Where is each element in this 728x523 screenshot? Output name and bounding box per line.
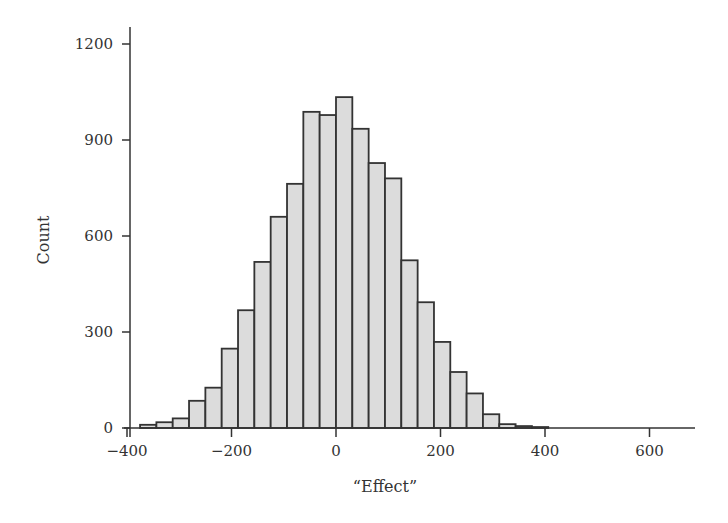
y-tick-label: 1200 [75, 35, 113, 53]
histogram-bar [483, 414, 499, 428]
histogram-bar [173, 418, 189, 428]
histogram-bar [385, 178, 401, 428]
histogram-bar [271, 217, 287, 428]
histogram-bar [287, 184, 303, 428]
histogram-bar [418, 302, 434, 428]
y-tick-label: 0 [103, 419, 113, 437]
histogram-bar [434, 342, 450, 428]
x-tick-label: 400 [531, 442, 560, 460]
histogram-bar [467, 393, 483, 428]
histogram-bar [352, 129, 368, 428]
histogram-bar [303, 112, 319, 428]
histogram-bar [238, 310, 254, 428]
histogram-bar [320, 115, 336, 428]
y-axis-title: Count [34, 215, 53, 264]
x-axis-ticks: −400−2000200400600 [106, 428, 663, 460]
histogram-chart: 03006009001200 −400−2000200400600 “Effec… [0, 0, 728, 523]
histogram-bar [156, 422, 172, 428]
histogram-bar [189, 401, 205, 428]
histogram-bars [140, 97, 548, 428]
y-axis-ticks: 03006009001200 [75, 35, 130, 437]
x-tick-label: −200 [211, 442, 252, 460]
histogram-bar [401, 260, 417, 428]
histogram-bar [205, 388, 221, 428]
y-tick-label: 900 [84, 131, 113, 149]
histogram-bar [450, 372, 466, 428]
x-tick-label: 200 [426, 442, 455, 460]
x-axis-title: “Effect” [353, 477, 417, 496]
histogram-bar [254, 262, 270, 428]
y-tick-label: 600 [84, 227, 113, 245]
x-tick-label: 0 [331, 442, 341, 460]
x-tick-label: 600 [635, 442, 664, 460]
histogram-bar [336, 97, 352, 428]
x-tick-label: −400 [106, 442, 147, 460]
histogram-bar [222, 349, 238, 428]
y-tick-label: 300 [84, 323, 113, 341]
histogram-bar [369, 163, 385, 428]
